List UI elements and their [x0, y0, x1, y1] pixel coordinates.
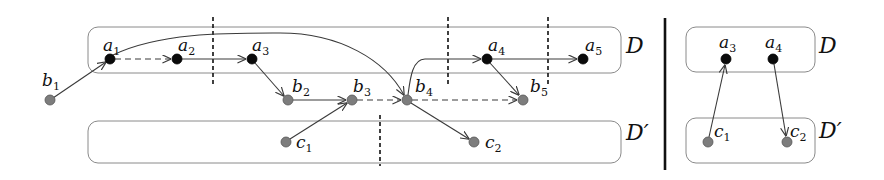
node-a4 [482, 54, 492, 64]
edge-a4-b5 [490, 63, 519, 95]
right-label-c2: c2 [790, 121, 807, 144]
label-a2: a2 [178, 35, 195, 58]
node-c2 [469, 137, 479, 147]
label-b4: b4 [415, 76, 433, 99]
label-a4: a4 [488, 35, 505, 58]
right-label-a3: a3 [719, 32, 736, 55]
right-node-c1 [703, 137, 713, 147]
diagram-canvas: a1 a2 a3 a4 a5 b1 b2 b3 b4 b5 c1 c2 D D′… [0, 0, 884, 180]
label-b3: b3 [353, 76, 371, 99]
label-c1: c1 [296, 132, 313, 155]
set-Dprime-box [88, 121, 621, 163]
right-label-c1: c1 [714, 121, 731, 144]
node-b3 [347, 95, 357, 105]
right-label-a4: a4 [765, 32, 782, 55]
set-label-D: D [625, 33, 644, 58]
node-b2 [283, 95, 293, 105]
node-b5 [518, 95, 528, 105]
node-a2 [172, 54, 182, 64]
right-panel: a3 a4 c1 c2 D D′ [686, 27, 842, 163]
right-set-label-Dprime: D′ [818, 118, 842, 143]
right-node-a3 [721, 54, 731, 64]
node-c1 [281, 137, 291, 147]
right-node-a4 [768, 54, 778, 64]
edge-b1-a1 [53, 62, 106, 98]
label-c2: c2 [485, 132, 502, 155]
label-a3: a3 [252, 35, 269, 58]
right-set-D-box [686, 27, 815, 72]
node-b4 [402, 95, 412, 105]
set-label-Dprime: D′ [625, 120, 649, 145]
edge-a3-b2 [255, 63, 284, 96]
label-b5: b5 [530, 76, 548, 99]
label-a5: a5 [585, 35, 602, 58]
right-set-label-D: D [818, 33, 837, 58]
node-a3 [247, 54, 257, 64]
label-b2: b2 [292, 76, 310, 99]
left-panel: a1 a2 a3 a4 a5 b1 b2 b3 b4 b5 c1 c2 D D′ [42, 17, 649, 166]
node-a5 [578, 54, 588, 64]
label-b1: b1 [42, 70, 60, 93]
label-a1: a1 [103, 35, 120, 58]
right-edge-a4-c2 [774, 64, 786, 136]
node-b1 [45, 95, 55, 105]
